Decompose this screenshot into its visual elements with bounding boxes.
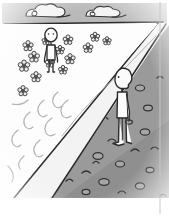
scan-vignette — [0, 0, 169, 216]
illustration-canvas: Line drawing: a figure standing in a flo… — [0, 0, 169, 216]
bottom-margin — [0, 198, 169, 216]
scene-drawing — [0, 0, 169, 216]
